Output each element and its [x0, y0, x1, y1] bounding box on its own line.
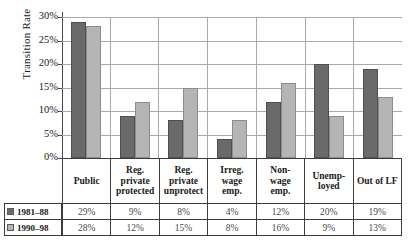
table-value-cell: 16%	[256, 220, 304, 236]
bar	[71, 22, 86, 158]
table-category-header: Non-wageemp.	[256, 159, 304, 204]
table-value-cell: 4%	[208, 204, 256, 220]
legend-item-series-a: 1981–88	[5, 204, 62, 220]
table-value-cell: 15%	[159, 220, 207, 236]
y-axis-tick-label: 10%	[24, 105, 58, 115]
table-value-cell: 28%	[63, 220, 111, 236]
bar	[363, 69, 378, 158]
table-category-header: Irreg.wageemp.	[208, 159, 256, 204]
table-row: 28%12%15%8%16%9%13%	[63, 220, 402, 236]
bar	[86, 26, 101, 158]
y-axis-tick-label: 30%	[24, 11, 58, 21]
bar	[217, 139, 232, 158]
data-table: PublicReg.privateprotectedReg.privateunp…	[62, 158, 402, 236]
legend-label: 1981–88	[17, 207, 49, 217]
table-value-cell: 19%	[353, 204, 401, 220]
bar-group	[353, 17, 402, 158]
table-value-cell: 8%	[159, 204, 207, 220]
bar	[314, 64, 329, 158]
bar	[120, 116, 135, 158]
table-value-cell: 29%	[63, 204, 111, 220]
legend: 1981–88 1990–98	[4, 203, 62, 236]
y-axis-tick-label: 20%	[24, 58, 58, 68]
bar-group	[62, 17, 111, 158]
bar-group	[256, 17, 305, 158]
table-value-cell: 12%	[111, 220, 159, 236]
table-row-category-headers: PublicReg.privateprotectedReg.privateunp…	[63, 159, 402, 204]
legend-table: 1981–88 1990–98	[4, 203, 62, 236]
bar	[329, 116, 344, 158]
bar-group	[111, 17, 160, 158]
table-value-cell: 13%	[353, 220, 401, 236]
table-value-cell: 12%	[256, 204, 304, 220]
y-axis-tick-label: 25%	[24, 35, 58, 45]
bar-group	[159, 17, 208, 158]
table-value-cell: 8%	[208, 220, 256, 236]
table-row: 29%9%8%4%12%20%19%	[63, 204, 402, 220]
bar	[135, 102, 150, 158]
bars-layer	[62, 17, 402, 158]
table-value-cell: 9%	[111, 204, 159, 220]
grouped-bar-chart: Transition Rate 30%25%20%15%10%5%0% Publ…	[0, 0, 410, 245]
bar-group	[208, 17, 257, 158]
table-category-header: Out of LF	[353, 159, 401, 204]
legend-label: 1990–98	[17, 223, 49, 233]
bar	[232, 120, 247, 158]
table-category-header: Public	[63, 159, 111, 204]
bar	[168, 120, 183, 158]
table-category-header: Unemp-loyed	[305, 159, 353, 204]
bar	[378, 97, 393, 158]
bar	[281, 83, 296, 158]
bar	[266, 102, 281, 158]
bar	[183, 88, 198, 159]
legend-item-series-b: 1990–98	[5, 220, 62, 236]
y-axis-tick-label: 5%	[24, 129, 58, 139]
table-category-header: Reg.privateunprotect	[159, 159, 207, 204]
y-axis-tick-label: 0%	[24, 152, 58, 162]
y-axis-tick-label: 15%	[24, 82, 58, 92]
table-category-header: Reg.privateprotected	[111, 159, 159, 204]
legend-swatch-icon	[7, 224, 14, 231]
table-value-cell: 20%	[305, 204, 353, 220]
table-value-cell: 9%	[305, 220, 353, 236]
bar-group	[305, 17, 354, 158]
legend-swatch-icon	[7, 208, 14, 215]
